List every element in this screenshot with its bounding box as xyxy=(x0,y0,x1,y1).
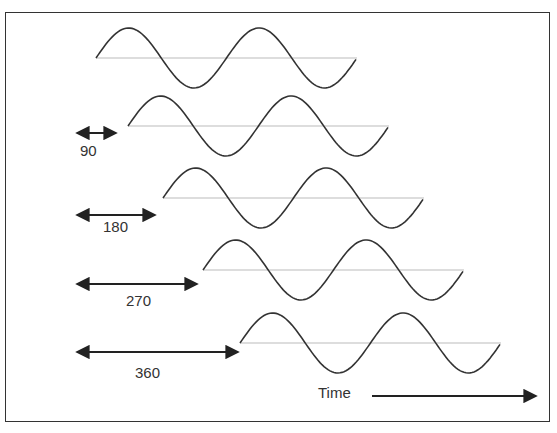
label-90: 90 xyxy=(80,142,97,159)
label-360: 360 xyxy=(135,364,160,381)
sine-wave-1 xyxy=(96,28,357,88)
label-180: 180 xyxy=(103,218,128,235)
sine-wave-3 xyxy=(163,168,424,228)
label-270: 270 xyxy=(126,292,151,309)
phase-shift-diagram xyxy=(0,0,557,433)
sine-wave-5 xyxy=(240,313,501,373)
time-label: Time xyxy=(318,384,351,401)
sine-wave-2 xyxy=(128,96,389,156)
sine-wave-4 xyxy=(203,240,464,300)
